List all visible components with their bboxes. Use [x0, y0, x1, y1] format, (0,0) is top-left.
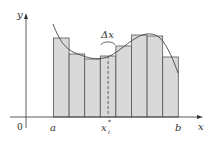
- rectangle-8: [163, 57, 179, 117]
- rectangles: [54, 35, 179, 117]
- delta-x-label: Δx: [100, 29, 114, 40]
- rectangle-5: [116, 46, 132, 117]
- sample-point-subscript: i: [108, 128, 110, 135]
- riemann-sum-diagram: y x 0 a b x i * Δx: [0, 0, 213, 143]
- rectangle-6: [132, 35, 148, 117]
- rectangle-3: [85, 59, 101, 117]
- delta-x-brace: [101, 42, 115, 45]
- x-axis-arrow-icon: [197, 115, 203, 119]
- x-axis-label: x: [198, 121, 204, 132]
- rectangle-7: [147, 36, 163, 117]
- y-axis-label: y: [16, 9, 23, 20]
- sample-point-label: x: [101, 122, 107, 133]
- rectangle-2: [69, 54, 85, 117]
- b-label: b: [175, 122, 181, 133]
- rectangle-1: [54, 38, 70, 117]
- a-label: a: [50, 122, 56, 133]
- origin-label: 0: [17, 122, 23, 132]
- y-axis-arrow-icon: [24, 13, 28, 19]
- sample-point-superscript: *: [108, 118, 111, 125]
